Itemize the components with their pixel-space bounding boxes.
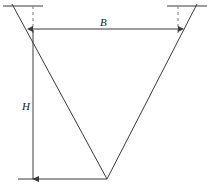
trench-slope-left	[12, 4, 107, 179]
figure-drawing-canvas	[0, 0, 211, 195]
trench-slope-right	[107, 4, 197, 179]
width-dimension-label: B	[100, 17, 107, 28]
trench-cross-section-figure: B H	[0, 0, 211, 195]
depth-dimension-label: H	[22, 101, 30, 112]
